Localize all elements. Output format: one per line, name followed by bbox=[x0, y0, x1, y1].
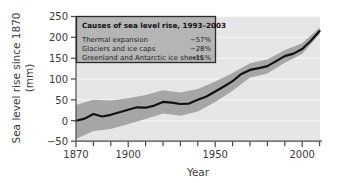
chart-svg: 250 200 150 100 50 0 −50 bbox=[0, 0, 341, 183]
y-tick-label-200: 200 bbox=[49, 32, 68, 43]
x-axis-title: Year bbox=[186, 166, 210, 178]
y-axis-title-line1: Sea level rise since 1870 bbox=[10, 12, 22, 143]
legend-title: Causes of sea level rise, 1993–2003 bbox=[82, 21, 226, 30]
legend-value-thermal-expansion: −57% bbox=[190, 36, 212, 44]
x-tick-label-2000: 2000 bbox=[289, 149, 314, 160]
y-axis-title-line2: (mm) bbox=[23, 64, 35, 93]
y-tick-label-250: 250 bbox=[49, 11, 68, 22]
y-tick-label-100: 100 bbox=[49, 74, 68, 85]
legend-label-thermal-expansion: Thermal expansion bbox=[81, 36, 148, 44]
legend-value-glaciers-ice-caps: −28% bbox=[190, 45, 212, 53]
legend-label-glaciers-ice-caps: Glaciers and ice caps bbox=[82, 45, 156, 53]
legend-label-greenland-antarctic-ice-sheets: Greenland and Antarctic ice sheets bbox=[82, 54, 203, 62]
sea-level-rise-chart: 250 200 150 100 50 0 −50 bbox=[0, 0, 341, 183]
legend-box: Causes of sea level rise, 1993–2003 Ther… bbox=[77, 17, 227, 63]
y-ticks bbox=[71, 17, 76, 142]
x-tick-label-1900: 1900 bbox=[115, 149, 140, 160]
x-ticks bbox=[76, 141, 320, 147]
y-tick-label-0: 0 bbox=[62, 116, 68, 127]
legend-value-greenland-antarctic-ice-sheets: −15% bbox=[190, 54, 212, 62]
x-tick-label-1870: 1870 bbox=[63, 149, 88, 160]
y-tick-label-50: 50 bbox=[55, 95, 68, 106]
x-tick-labels: 1870 1900 1950 2000 bbox=[63, 149, 315, 160]
y-tick-label-neg50: −50 bbox=[47, 136, 68, 147]
y-tick-labels: 250 200 150 100 50 0 −50 bbox=[47, 11, 68, 147]
y-tick-label-150: 150 bbox=[49, 53, 68, 64]
x-tick-label-1950: 1950 bbox=[202, 149, 227, 160]
